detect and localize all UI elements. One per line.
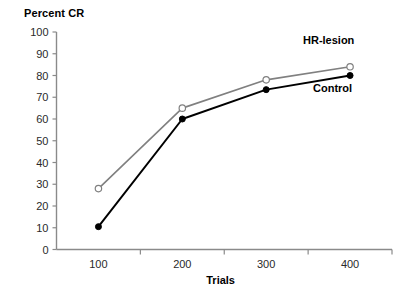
y-tick-label: 10 [36,222,48,234]
data-point-hr-lesion-200 [179,105,185,111]
data-point-control-200 [179,116,185,122]
y-tick-label: 80 [36,70,48,82]
x-axis-label: Trials [206,274,235,286]
y-tick-label: 30 [36,178,48,190]
x-tick-label: 200 [173,258,191,270]
y-tick-label: 100 [30,26,48,38]
x-tick-label: 100 [89,258,107,270]
data-point-control-100 [95,224,101,230]
y-tick-label: 70 [36,91,48,103]
series-line-control [98,76,350,227]
y-tick-label: 20 [36,200,48,212]
x-tick-label: 400 [341,258,359,270]
y-tick-label: 0 [42,244,48,256]
y-tick-label: 50 [36,135,48,147]
chart-container: Percent CR 0102030405060708090100 100200… [0,0,405,297]
y-axis-ticks: 0102030405060708090100 [30,26,56,256]
data-point-hr-lesion-300 [263,77,269,83]
data-point-hr-lesion-400 [347,64,353,70]
data-point-control-300 [263,87,269,93]
series-label-hr-lesion: HR-lesion [303,34,354,46]
data-point-control-400 [347,73,353,79]
x-tick-label: 300 [257,258,275,270]
y-tick-label: 60 [36,113,48,125]
data-point-hr-lesion-100 [95,185,101,191]
series-label-control: Control [313,82,352,94]
y-tick-label: 90 [36,48,48,60]
x-axis-ticks: 100200300400 [89,250,392,270]
y-tick-label: 40 [36,157,48,169]
